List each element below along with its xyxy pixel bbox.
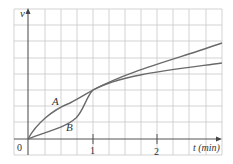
- origin-label: 0: [17, 142, 22, 153]
- series-b-label: B: [66, 121, 73, 133]
- x-axis-arrow-icon: [216, 137, 222, 142]
- x-tick-2: 2: [154, 146, 159, 157]
- series-a-label: A: [51, 95, 59, 107]
- velocity-time-chart: v A B 0 1 2 t (min): [0, 0, 233, 164]
- x-tick-1: 1: [90, 145, 95, 156]
- y-axis-label: v: [20, 7, 25, 19]
- x-axis-label: t (min): [193, 142, 221, 154]
